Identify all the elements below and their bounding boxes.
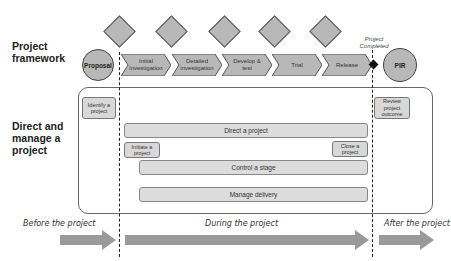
direct-project-label: Direct a project [224,127,268,134]
section-label-direct-manage: Direct and manage a project [12,120,72,156]
during-arrow-icon [125,230,369,250]
stage-label-2: Detailed investigation [178,54,216,76]
pir-label: PIR [395,62,406,69]
stage-label-3: Develop & test [228,54,266,76]
gate-diamond-1 [103,15,136,48]
proposal-label: Proposal [84,62,112,69]
close-project-label: Close a project [333,143,367,156]
phase-label-before: Before the project [23,219,96,228]
gate-diamond-2 [155,15,188,48]
phase-label-during: During the project [205,219,278,228]
review-outcome-label: Review project outcome [375,98,409,118]
stage-chevron-3: Develop & test [222,54,272,76]
identify-project-label: Identify a project [83,102,115,115]
stage-chevron-1: Initial investigation [121,54,171,76]
control-stage-bar: Control a stage [139,160,368,175]
stage-label-4: Trial [278,54,316,76]
proposal-circle: Proposal [82,49,114,81]
project-completed-note: Project Completed [352,36,396,50]
stage-chevron-4: Trial [272,54,322,76]
gate-diamond-3 [208,15,241,48]
gate-diamond-4 [258,15,291,48]
section-label-framework: Project framework [12,40,72,64]
initiate-project-box: Initiate a project [124,142,160,158]
stage-chevron-5: Release [322,54,372,76]
pir-circle: PIR [383,48,417,82]
control-stage-label: Control a stage [231,164,275,171]
review-outcome-box: Review project outcome [374,97,410,119]
stage-label-1: Initial investigation [127,54,165,76]
project-start-divider [119,52,120,257]
gate-diamond-5 [309,15,342,48]
manage-delivery-label: Manage delivery [230,191,278,198]
initiate-project-label: Initiate a project [125,144,159,157]
project-end-divider [372,50,373,257]
direct-project-bar: Direct a project [124,123,368,138]
phase-label-after: After the project [384,219,450,228]
before-arrow-icon [60,230,116,250]
identify-project-box: Identify a project [82,97,116,119]
stage-chevron-2: Detailed investigation [172,54,222,76]
close-project-box: Close a project [332,141,368,157]
after-arrow-icon [379,230,434,250]
stage-label-5: Release [328,54,366,76]
manage-delivery-bar: Manage delivery [139,187,368,202]
